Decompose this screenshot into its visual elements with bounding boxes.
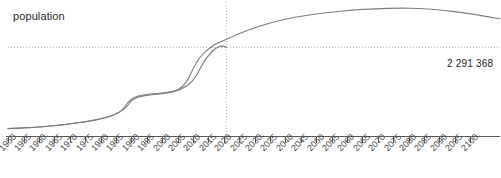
- population-line-segment-main: [8, 8, 500, 128]
- marker-value-label: 2 291 368: [447, 58, 493, 69]
- population-chart: population: [0, 0, 501, 178]
- chart-plot-area: [0, 0, 501, 178]
- x-axis-ticks: [9, 136, 471, 143]
- population-line: [8, 46, 227, 128]
